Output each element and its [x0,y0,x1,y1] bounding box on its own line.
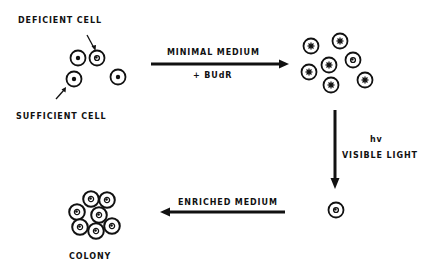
down-arrow-icon [331,110,340,189]
right-arrow-icon [151,60,289,69]
colony-cell-icon [83,191,99,207]
sufficient-cell-label: SUFFICIENT CELL [16,112,106,121]
deficient-cell-icon [346,53,361,68]
sufficient-pointer-arrow [56,87,66,99]
budr-cell-icon [322,58,337,73]
budr-treated-cells [302,34,373,93]
colony-cell-icon [72,219,88,235]
initial-cells [67,51,126,87]
colony-label: COLONY [69,252,111,261]
selection-diagram: DEFICIENT CELL SUFFICIENT CELL MINIMAL M… [0,0,425,272]
budr-label: + BUdR [193,71,232,80]
visible-light-label: VISIBLE LIGHT [342,151,418,160]
deficient-pointer-arrow [87,35,96,51]
deficient-cell-label: DEFICIENT CELL [18,16,102,25]
colony-cell-icon [69,204,85,220]
deficient-cell-icon [90,51,105,66]
colony-cell-icon [99,192,115,208]
budr-cell-icon [304,39,319,54]
colony-cell-icon [91,207,107,223]
colony-cell-icon [104,218,120,234]
minimal-medium-label: MINIMAL MEDIUM [167,48,260,57]
left-arrow-icon [160,208,285,217]
budr-cell-icon [302,65,317,80]
budr-cell-icon [358,73,373,88]
enriched-medium-label: ENRICHED MEDIUM [178,198,278,207]
budr-cell-icon [333,34,348,49]
colony-cluster [69,191,120,239]
colony-cell-icon [88,223,104,239]
surviving-cell-icon [329,203,344,218]
sufficient-cell-icon [71,51,86,66]
budr-cell-icon [324,78,339,93]
sufficient-cell-icon [67,72,82,87]
sufficient-cell-icon [111,70,126,85]
hv-label: hv [370,135,383,144]
